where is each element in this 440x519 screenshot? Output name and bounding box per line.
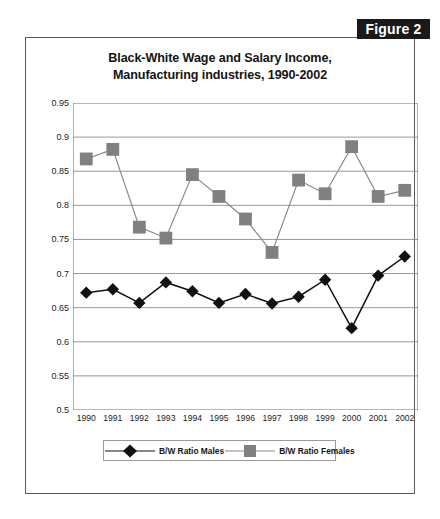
data-point-marker[interactable] xyxy=(345,140,358,153)
data-point-marker[interactable] xyxy=(319,274,331,286)
data-point-marker[interactable] xyxy=(399,250,411,262)
data-point-marker[interactable] xyxy=(107,283,119,295)
y-tick-label: 0.6 xyxy=(56,337,69,347)
data-point-marker[interactable] xyxy=(319,187,332,200)
x-tick-label: 1990 xyxy=(77,413,96,423)
square-marker-icon xyxy=(224,444,276,458)
data-point-marker[interactable] xyxy=(345,322,357,334)
chart-title-line-2: Manufacturing industries, 1990-2002 xyxy=(25,67,415,84)
legend-label-males: B/W Ratio Males xyxy=(159,446,224,456)
data-point-marker[interactable] xyxy=(80,286,92,298)
x-tick-label: 1999 xyxy=(316,413,335,423)
x-tick-label: 1991 xyxy=(103,413,122,423)
data-point-marker[interactable] xyxy=(159,232,172,245)
y-tick-label: 0.7 xyxy=(56,269,69,279)
x-axis-tick-labels: 1990199119921993199419951996199719981999… xyxy=(73,413,418,429)
y-tick-label: 0.95 xyxy=(51,98,69,108)
data-point-marker[interactable] xyxy=(372,269,384,281)
legend-entry-males[interactable]: B/W Ratio Males xyxy=(104,444,224,458)
chart-plot-svg xyxy=(73,103,418,410)
data-point-marker[interactable] xyxy=(239,213,252,226)
data-point-marker[interactable] xyxy=(239,288,251,300)
y-tick-label: 0.55 xyxy=(51,371,69,381)
data-point-marker[interactable] xyxy=(133,221,146,234)
figure-number-badge: Figure 2 xyxy=(357,19,430,39)
y-tick-label: 0.9 xyxy=(56,132,69,142)
legend-entry-females[interactable]: B/W Ratio Females xyxy=(224,444,354,458)
data-point-marker[interactable] xyxy=(372,190,385,203)
y-tick-label: 0.75 xyxy=(51,234,69,244)
x-tick-label: 1998 xyxy=(289,413,308,423)
diamond-marker-icon xyxy=(104,444,156,458)
data-point-marker[interactable] xyxy=(80,153,93,166)
chart-title: Black-White Wage and Salary Income, Manu… xyxy=(25,50,415,84)
x-tick-label: 1994 xyxy=(183,413,202,423)
data-point-marker[interactable] xyxy=(266,246,279,259)
data-point-marker[interactable] xyxy=(106,143,119,156)
x-tick-label: 1997 xyxy=(262,413,281,423)
x-tick-label: 1992 xyxy=(130,413,149,423)
x-tick-label: 1995 xyxy=(209,413,228,423)
y-tick-label: 0.5 xyxy=(56,405,69,415)
y-tick-label: 0.8 xyxy=(56,200,69,210)
data-point-marker[interactable] xyxy=(213,190,226,203)
data-point-marker[interactable] xyxy=(292,174,305,187)
data-point-marker[interactable] xyxy=(186,285,198,297)
y-axis-tick-labels: 0.950.90.850.80.750.70.650.60.550.5 xyxy=(33,103,69,410)
x-tick-label: 1993 xyxy=(156,413,175,423)
x-tick-label: 2001 xyxy=(369,413,388,423)
data-point-marker[interactable] xyxy=(160,276,172,288)
data-point-marker[interactable] xyxy=(398,184,411,197)
chart-legend: B/W Ratio Males B/W Ratio Females xyxy=(103,440,336,461)
chart-title-line-1: Black-White Wage and Salary Income, xyxy=(25,50,415,67)
data-point-marker[interactable] xyxy=(292,291,304,303)
x-tick-label: 2002 xyxy=(395,413,414,423)
y-tick-label: 0.85 xyxy=(51,166,69,176)
plot-area xyxy=(73,103,418,410)
y-tick-label: 0.65 xyxy=(51,303,69,313)
series-line-females xyxy=(86,147,404,253)
data-point-marker[interactable] xyxy=(186,168,199,181)
x-tick-label: 2000 xyxy=(342,413,361,423)
legend-label-females: B/W Ratio Females xyxy=(279,446,354,456)
x-tick-label: 1996 xyxy=(236,413,255,423)
